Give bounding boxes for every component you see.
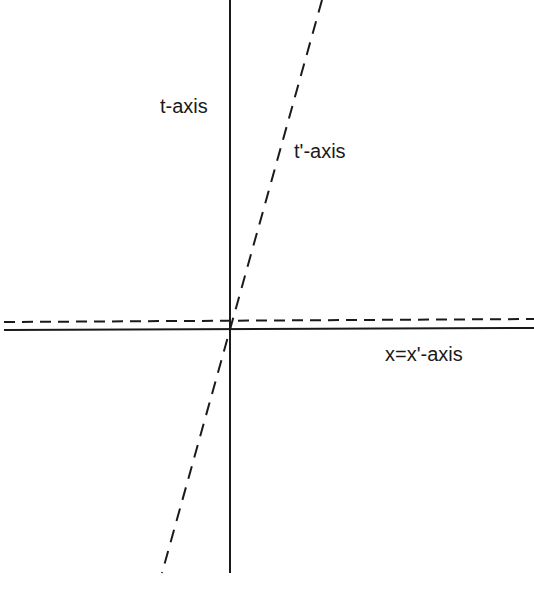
x-axis-label: x=x'-axis [385, 344, 463, 364]
t-axis-label: t-axis [160, 96, 208, 116]
spacetime-diagram: t-axis t'-axis x=x'-axis [0, 0, 534, 602]
x-prime-axis-line [4, 319, 534, 322]
t-prime-axis-label: t'-axis [294, 141, 346, 161]
t-prime-axis-line [162, 0, 322, 573]
x-axis-line [4, 328, 534, 330]
axes-svg [0, 0, 534, 602]
